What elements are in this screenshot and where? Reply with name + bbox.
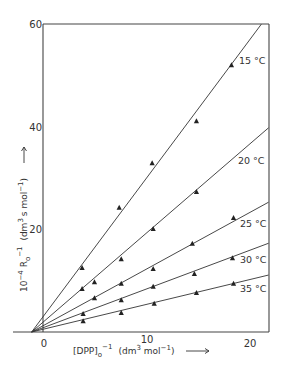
triangle-marker-icon — [150, 160, 155, 165]
y-axis-arrow-icon — [22, 147, 27, 163]
fit-line — [32, 24, 262, 332]
y-tick-label: 40 — [29, 122, 42, 133]
x-axis-arrow-icon — [186, 349, 209, 354]
x-tick-label: 0 — [41, 338, 47, 349]
x-axis-title: [DPP]o−1(dm3 mol−1) — [73, 343, 174, 359]
fit-line — [32, 128, 269, 332]
series-label: 20 °C — [238, 155, 265, 166]
triangle-marker-icon — [194, 118, 199, 123]
triangle-marker-icon — [151, 284, 156, 289]
triangle-marker-icon — [229, 62, 234, 67]
fit-line — [32, 202, 269, 332]
series-label: 15 °C — [239, 55, 266, 66]
triangle-marker-icon — [117, 205, 122, 210]
fit-lines — [32, 24, 269, 332]
data-markers — [80, 62, 237, 323]
series-labels: 15 °C20 °C25 °C30 °C35 °C — [238, 55, 267, 294]
y-tick-label: 20 — [29, 224, 42, 235]
tick-labels: 01020204060 — [29, 19, 256, 349]
y-tick-label: 60 — [29, 19, 42, 30]
chart: 01020204060 15 °C20 °C25 °C30 °C35 °C [D… — [0, 0, 285, 374]
triangle-marker-icon — [231, 215, 236, 220]
series-label: 30 °C — [240, 254, 267, 265]
x-tick-label: 10 — [141, 334, 154, 345]
series-label: 25 °C — [240, 218, 267, 229]
series-label: 35 °C — [240, 283, 267, 294]
plot-frame — [13, 24, 269, 332]
x-tick-label: 20 — [244, 338, 257, 349]
triangle-marker-icon — [92, 295, 97, 300]
